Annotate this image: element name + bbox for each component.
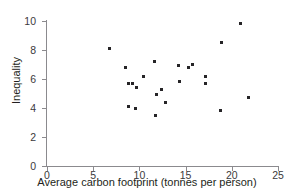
y-axis-label: Inequality — [10, 21, 23, 141]
data-point — [177, 64, 180, 67]
data-point — [219, 109, 222, 112]
y-tick-mark — [42, 79, 46, 80]
data-point — [153, 60, 156, 63]
data-point — [204, 75, 207, 78]
y-tick-mark — [42, 137, 46, 138]
y-tick-mark — [42, 21, 46, 22]
y-tick-mark — [42, 166, 46, 167]
data-point — [178, 80, 181, 83]
data-point — [135, 86, 138, 89]
y-tick-mark — [42, 50, 46, 51]
data-point — [127, 105, 130, 108]
data-point — [247, 96, 250, 99]
data-point — [164, 101, 167, 104]
data-point — [131, 82, 134, 85]
data-point — [154, 114, 157, 117]
data-point — [160, 88, 163, 91]
plot-area — [47, 21, 278, 166]
y-tick-mark — [42, 108, 46, 109]
data-point — [191, 63, 194, 66]
y-tick-label: 0 — [14, 161, 36, 172]
data-point — [204, 82, 207, 85]
data-point — [127, 82, 130, 85]
data-point — [124, 66, 127, 69]
data-point — [108, 47, 111, 50]
data-point — [239, 22, 242, 25]
x-axis-line — [46, 166, 279, 167]
data-point — [134, 107, 137, 110]
data-point — [187, 66, 190, 69]
data-point — [142, 75, 145, 78]
data-point — [155, 93, 158, 96]
data-point — [220, 41, 223, 44]
scatter-chart: 0246810 0510152025 Inequality Average ca… — [0, 0, 294, 192]
x-axis-label: Average carbon footprint (tonnes per per… — [0, 176, 294, 189]
